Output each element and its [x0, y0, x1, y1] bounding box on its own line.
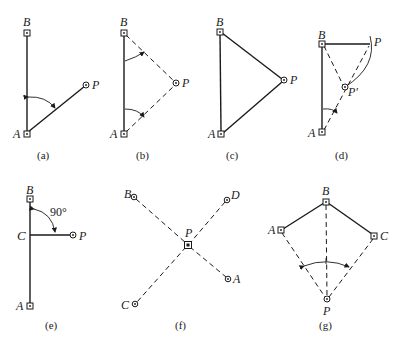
- label-a: A: [12, 127, 21, 141]
- caption-c: (c): [226, 149, 239, 162]
- angle-arc-bottom: [125, 109, 144, 117]
- label-p: P: [289, 73, 298, 87]
- panel-e: B C P A 90° (e): [15, 183, 87, 332]
- label-p: P: [91, 78, 100, 92]
- label-p: P: [322, 304, 331, 318]
- label-p: P: [373, 35, 382, 49]
- label-a: A: [109, 127, 118, 141]
- label-b: B: [318, 28, 326, 42]
- label-b: B: [120, 15, 128, 29]
- label-p: P: [184, 226, 193, 240]
- caption-g: (g): [319, 319, 332, 332]
- label-a: A: [15, 299, 24, 313]
- label-b: B: [26, 183, 34, 197]
- label-c: C: [380, 229, 389, 243]
- line-ap: [28, 86, 85, 132]
- label-a: A: [232, 272, 241, 286]
- caption-f: (f): [175, 319, 186, 332]
- label-c: C: [121, 298, 130, 312]
- label-c: C: [17, 228, 26, 243]
- caption-d: (d): [335, 149, 348, 162]
- label-b: B: [124, 187, 132, 201]
- caption-e: (e): [45, 319, 58, 332]
- label-b: B: [322, 184, 330, 198]
- label-p: P: [181, 76, 190, 90]
- angle-arc: [323, 109, 337, 113]
- angle-arc-top: [125, 52, 144, 61]
- angle-arc: [28, 97, 55, 108]
- caption-a: (a): [37, 149, 50, 162]
- label-p: P: [78, 229, 87, 243]
- surveying-diagram: B A P (a) B A P (b) B A P (c): [0, 0, 407, 340]
- panel-a: B A P (a): [12, 15, 100, 162]
- panel-f: B D P A C (f): [121, 187, 241, 332]
- label-b: B: [216, 15, 224, 29]
- panel-c: B A P (c): [207, 15, 298, 162]
- label-d: D: [230, 188, 240, 202]
- panel-g: B A C P (g): [267, 184, 389, 332]
- angle-label: 90°: [50, 205, 67, 219]
- label-b: B: [23, 15, 31, 29]
- caption-b: (b): [136, 149, 149, 162]
- label-a: A: [307, 126, 316, 140]
- label-a: A: [207, 127, 216, 141]
- panel-b: B A P (b): [109, 15, 190, 162]
- label-p-prime: P': [347, 85, 358, 99]
- panel-d: B A P P' (d): [307, 28, 382, 162]
- label-a: A: [267, 223, 276, 237]
